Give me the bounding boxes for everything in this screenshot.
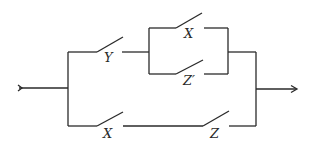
switch-label-zprime: Z′: [182, 73, 195, 88]
input-terminal: [18, 85, 68, 91]
switch-label-x-lower: X: [102, 126, 113, 141]
switching-circuit-diagram: Y X Z′ X Z: [0, 0, 309, 143]
switch-y: Y: [97, 37, 123, 65]
switch-blade: [203, 111, 229, 126]
switch-x-upper: X: [176, 13, 202, 41]
switch-label-z: Z: [209, 126, 220, 141]
switch-label-y: Y: [104, 50, 114, 65]
switch-label-x-upper: X: [183, 26, 194, 41]
switch-blade: [97, 112, 123, 126]
switch-zprime: Z′: [176, 60, 203, 88]
switch-x-lower: X: [97, 112, 123, 141]
lower-branch: X Z: [68, 111, 256, 141]
switch-blade: [176, 60, 203, 74]
upper-branch: Y X Z′: [68, 13, 256, 88]
switch-z: Z: [203, 111, 229, 141]
output-terminal: [256, 86, 297, 93]
